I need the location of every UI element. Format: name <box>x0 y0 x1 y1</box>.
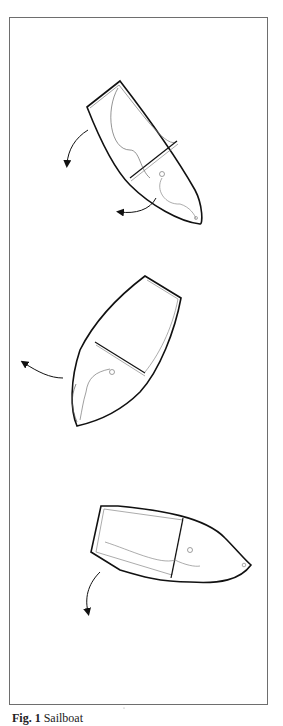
caption-text: Sailboat <box>44 711 83 725</box>
boat-3 <box>87 506 251 612</box>
rotation-arrow-icon <box>87 572 100 612</box>
figure-caption: Fig. 1 Sailboat <box>12 711 83 726</box>
boat-1 <box>67 81 202 224</box>
rotation-arrow-icon <box>67 130 88 164</box>
rotation-arrow-icon <box>120 198 156 212</box>
boat-2 <box>24 276 181 426</box>
rotation-arrow-icon <box>24 363 63 378</box>
caption-label: Fig. 1 <box>12 711 41 725</box>
